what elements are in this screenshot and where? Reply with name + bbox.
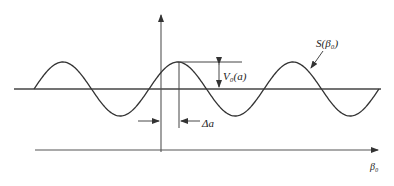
x-axis-label: β₀ <box>369 161 379 172</box>
diagram-canvas: V₀(a) Δa S(β₀) β₀ <box>0 0 394 186</box>
signal-label: S(β₀) <box>316 37 338 50</box>
signal-leader-line <box>311 51 323 68</box>
delta-a-label: Δa <box>201 117 214 129</box>
amplitude-label: V₀(a) <box>223 70 247 83</box>
